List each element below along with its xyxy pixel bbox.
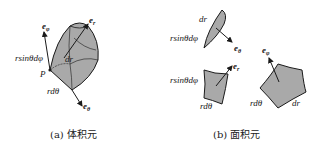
surf-phi-rdtheta-label: rdθ (250, 99, 262, 108)
surf-r-vec-label: er (233, 62, 239, 72)
surf-theta-vec-label: eθ (234, 44, 241, 54)
caption-b: (b) 面积元 (213, 126, 260, 141)
surf-r-rdtheta-label: rdθ (200, 102, 212, 111)
surf-r-rsin-label: rsinθdφ (170, 76, 198, 85)
e-theta-label: eθ (83, 102, 90, 112)
e-r-label: er (89, 16, 95, 26)
surf-theta-dr-label: dr (199, 15, 207, 24)
surf-phi-dr-label: dr (292, 99, 300, 108)
surf-theta-rsin-label: rsinθdφ (170, 34, 198, 43)
dr-label: dr (65, 55, 73, 64)
caption-a: (a) 体积元 (50, 126, 97, 141)
surface-element-theta (204, 10, 232, 48)
surface-element-r (204, 66, 232, 104)
e-phi-label: eφ (42, 22, 50, 32)
rsin-dphi-label: rsinθdφ (15, 54, 43, 63)
point-p-label: P (40, 70, 46, 79)
surf-phi-vec-label: eφ (262, 46, 270, 56)
rdtheta-label: rdθ (47, 87, 59, 96)
